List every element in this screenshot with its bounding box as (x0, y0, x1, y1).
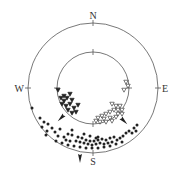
south-label: S (90, 156, 96, 167)
north-label: N (89, 10, 96, 21)
dot-marker (122, 135, 125, 138)
outer-circle (28, 23, 158, 153)
open-triangle-marker (114, 104, 118, 108)
dot-marker (67, 144, 70, 147)
filled-triangle-marker (56, 88, 60, 92)
open-triangle-marker (94, 119, 98, 123)
data-markers (31, 80, 139, 163)
dot-marker (83, 142, 86, 145)
dot-marker (113, 136, 116, 139)
dot-marker (81, 137, 84, 140)
dot-marker (89, 140, 92, 143)
dot-marker (85, 139, 88, 142)
dot-marker (43, 121, 46, 124)
filled-triangle-marker (66, 108, 70, 112)
dot-marker (116, 139, 119, 142)
open-triangle-marker (122, 88, 126, 92)
dot-marker (63, 136, 66, 139)
dot-marker (57, 135, 60, 138)
dot-marker (131, 132, 134, 135)
dot-marker (128, 130, 131, 133)
dot-marker (119, 137, 122, 140)
dot-marker (95, 143, 98, 146)
dot-marker (85, 147, 88, 150)
filled-triangle-marker (74, 110, 78, 114)
open-triangle-marker (124, 80, 128, 84)
dot-marker (69, 140, 72, 143)
dot-marker (45, 134, 48, 137)
dot-marker (103, 143, 106, 146)
dot-marker (71, 134, 74, 137)
dot-marker (71, 129, 74, 132)
mean-direction-arrow-icon (78, 154, 82, 163)
filled-triangle-marker (70, 98, 74, 102)
dot-marker (51, 127, 54, 130)
dot-marker (101, 138, 104, 141)
dot-marker (105, 139, 108, 142)
filled-triangle-marker (70, 111, 74, 115)
dot-marker (59, 128, 62, 131)
dot-marker (93, 140, 96, 143)
dot-marker (95, 137, 98, 140)
dot-marker (67, 133, 70, 136)
dot-marker (109, 145, 112, 148)
dot-marker (47, 123, 50, 126)
filled-triangle-marker (64, 104, 68, 108)
dot-marker (99, 142, 102, 145)
dot-marker (89, 135, 92, 138)
stereonet-diagram: N S E W (0, 0, 181, 173)
dot-marker (107, 142, 110, 145)
dot-marker (39, 117, 42, 120)
dot-marker (97, 147, 100, 150)
dot-marker (136, 124, 139, 127)
dot-marker (133, 127, 136, 130)
dot-marker (135, 130, 138, 133)
dot-marker (115, 143, 118, 146)
west-label: W (15, 83, 25, 94)
filled-triangle-marker (72, 106, 76, 110)
dot-marker (77, 136, 80, 139)
dot-marker (125, 132, 128, 135)
dot-marker (54, 131, 57, 134)
dot-marker (31, 107, 34, 110)
east-label: E (162, 83, 168, 94)
dot-marker (46, 130, 49, 133)
dot-marker (83, 133, 86, 136)
dot-marker (109, 137, 112, 140)
dot-marker (79, 146, 82, 149)
dot-marker (91, 147, 94, 150)
dot-marker (121, 141, 124, 144)
dot-marker (103, 146, 106, 149)
dot-marker (79, 141, 82, 144)
stereonet-canvas: N S E W (0, 0, 181, 173)
dot-marker (61, 142, 64, 145)
filled-triangle-marker (68, 92, 72, 96)
open-triangle-marker (116, 108, 120, 112)
dot-marker (41, 126, 44, 129)
mean-direction-arrow-icon (56, 113, 65, 122)
open-triangle-marker (110, 119, 114, 123)
open-triangle-marker (118, 104, 122, 108)
dot-marker (65, 139, 68, 142)
dot-marker (91, 144, 94, 147)
dot-marker (87, 143, 90, 146)
filled-triangle-marker (76, 103, 80, 107)
open-triangle-marker (120, 112, 124, 116)
dot-marker (55, 140, 58, 143)
dot-marker (111, 141, 114, 144)
dot-marker (73, 145, 76, 148)
dot-marker (75, 140, 78, 143)
mean-direction-arrow-icon (119, 116, 128, 125)
